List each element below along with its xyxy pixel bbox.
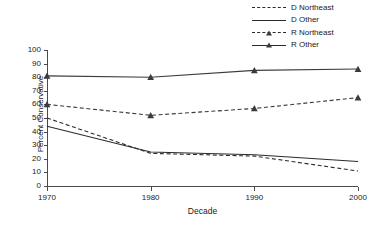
series-line — [47, 118, 358, 171]
chart-figure: D Northeast D Other R Northeast R Other … — [0, 0, 381, 227]
x-axis-tick-label: 1990 — [245, 194, 263, 202]
chart-legend: D Northeast D Other R Northeast R Other — [252, 2, 380, 52]
legend-item-d-northeast: D Northeast — [252, 2, 380, 13]
y-axis-tick-label: 100 — [28, 46, 41, 54]
y-axis-tick-label: 60 — [32, 100, 41, 108]
legend-item-r-northeast: R Northeast — [252, 27, 380, 38]
legend-item-d-other: D Other — [252, 15, 380, 26]
x-axis-title: Decade — [47, 206, 358, 216]
x-axis-tick — [151, 187, 152, 191]
legend-key-d-other — [252, 15, 286, 26]
y-axis-tick-label: 10 — [32, 168, 41, 176]
series-d-other — [47, 126, 358, 161]
plot-area — [47, 50, 358, 186]
series-d-northeast — [47, 118, 358, 171]
legend-label-r-other: R Other — [291, 40, 319, 50]
x-axis-tick-label: 1980 — [142, 194, 160, 202]
series-line — [47, 126, 358, 161]
y-axis-tick-label: 20 — [32, 155, 41, 163]
series-r-other — [44, 66, 362, 80]
triangle-marker-icon — [266, 43, 272, 48]
series-line — [47, 69, 358, 77]
solid-line-swatch — [252, 20, 286, 21]
legend-label-r-northeast: R Northeast — [291, 28, 334, 38]
x-axis-tick — [47, 187, 48, 191]
dashed-line-swatch — [252, 7, 286, 8]
x-axis-tick-label: 2000 — [349, 194, 367, 202]
x-axis-tick — [254, 187, 255, 191]
y-axis-tick-label: 30 — [32, 141, 41, 149]
series-layer — [47, 50, 358, 186]
legend-key-r-northeast — [252, 27, 286, 38]
legend-key-d-northeast — [252, 2, 286, 13]
y-axis-tick-label: 90 — [32, 60, 41, 68]
legend-key-r-other — [252, 40, 286, 51]
y-axis-tick-label: 0 — [37, 182, 41, 190]
legend-label-d-northeast: D Northeast — [291, 3, 334, 13]
triangle-marker-icon — [355, 94, 362, 100]
y-axis-tick-label: 70 — [32, 87, 41, 95]
x-axis: 1970198019902000 — [47, 186, 358, 187]
legend-item-r-other: R Other — [252, 40, 380, 51]
legend-label-d-other: D Other — [291, 15, 319, 25]
y-axis-tick-label: 40 — [32, 128, 41, 136]
y-axis-tick-label: 80 — [32, 73, 41, 81]
x-axis-tick-label: 1970 — [38, 194, 56, 202]
y-axis-tick-label: 50 — [32, 114, 41, 122]
series-line — [47, 98, 358, 116]
triangle-marker-icon — [266, 30, 272, 35]
series-r-northeast — [44, 94, 362, 118]
x-axis-tick — [358, 187, 359, 191]
